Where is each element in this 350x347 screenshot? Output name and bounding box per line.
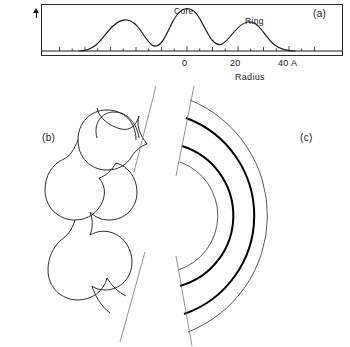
core-peak-label: Core [174,6,194,16]
figure-root: Electron density (a) Core Ring 0 20 40 A… [0,0,350,347]
x-axis-ticks [60,46,315,51]
ring-peak-label: Ring [245,16,264,26]
panel-c-label: (c) [300,132,313,143]
arc-outer-thick [184,118,254,314]
radial-cut-bottom [176,256,192,346]
xtick-label-40: 40 A [278,58,297,68]
xtick-label-20: 20 [230,58,241,68]
lobe-lower-right [90,231,132,290]
cut-line-lower [120,252,145,342]
lobe-middle-left [45,159,103,220]
radial-cut-top [176,86,194,176]
cusp-middle-right [99,163,116,200]
y-axis-label: Electron density [0,0,36,56]
x-axis-label: Radius [235,72,265,82]
arc-outer-thin [188,100,267,332]
cusp-left-upper [64,140,78,159]
lobe-upper-main [78,110,136,170]
lobe-lower-left [48,240,107,300]
cut-line-upper [134,86,156,172]
arc-inner-thin [178,162,218,270]
y-axis-arrow-stem [36,12,37,18]
xtick-label-0: 0 [182,58,187,68]
panel-b-shape [45,86,156,342]
panel-a-label: (a) [313,8,326,19]
cusp-left-lower [61,220,75,240]
lobe-arc-top-right [97,108,139,129]
arc-inner-thick [180,146,233,286]
panels-b-c-diagram [0,84,350,347]
panel-c-shape [176,86,267,346]
lobe-middle-right [90,163,137,220]
panel-b-label: (b) [42,132,55,143]
